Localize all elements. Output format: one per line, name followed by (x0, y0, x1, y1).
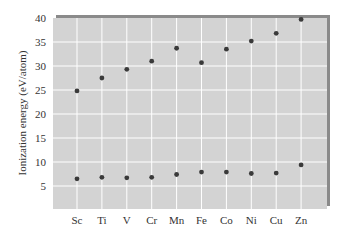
data-point (199, 60, 204, 65)
data-point (174, 46, 179, 51)
data-point (274, 31, 279, 36)
data-point (299, 162, 304, 167)
data-point (100, 76, 105, 81)
data-point (249, 171, 254, 176)
data-point (249, 39, 254, 44)
data-point (174, 172, 179, 177)
x-category-label: Mn (169, 214, 185, 226)
x-category-label: Cu (270, 214, 283, 226)
x-category-label: Cr (146, 214, 157, 226)
data-point (75, 176, 80, 181)
chart: 510152025303540 ScTiVCrMnFeCoNiCuZn Ioni… (0, 0, 347, 235)
x-category-label: Sc (72, 214, 83, 226)
data-point (299, 17, 304, 22)
x-category-label: Fe (196, 214, 207, 226)
x-category-label: Zn (295, 214, 308, 226)
y-tick-label: 35 (35, 36, 47, 48)
data-point (149, 175, 154, 180)
y-tick-label: 5 (41, 180, 47, 192)
x-category-label: Ni (246, 214, 257, 226)
y-axis-ticks: 510152025303540 (35, 12, 47, 192)
data-point (199, 170, 204, 175)
y-tick-label: 25 (35, 84, 47, 96)
data-point (124, 175, 129, 180)
data-point (100, 175, 105, 180)
y-tick-label: 30 (35, 60, 47, 72)
y-tick-label: 40 (35, 12, 47, 24)
x-category-label: Co (220, 214, 233, 226)
data-point (75, 89, 80, 94)
x-axis-categories: ScTiVCrMnFeCoNiCuZn (72, 214, 308, 226)
y-axis-label: Ionization energy (eV/atom) (16, 50, 29, 175)
data-point (274, 171, 279, 176)
y-tick-label: 10 (35, 156, 47, 168)
data-point (224, 47, 229, 52)
plot-frame (53, 15, 330, 209)
y-tick-label: 15 (35, 132, 47, 144)
x-category-label: V (123, 214, 131, 226)
y-tick-label: 20 (35, 108, 47, 120)
x-category-label: Ti (97, 214, 106, 226)
data-point (149, 59, 154, 64)
data-point (224, 170, 229, 175)
data-point (124, 67, 129, 72)
